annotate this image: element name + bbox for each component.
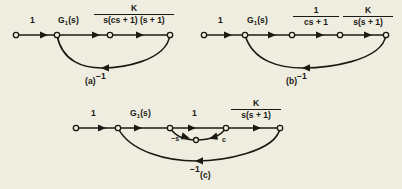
panel-b-feedback-arc <box>245 35 386 68</box>
panel-c-g-suffix: (s) <box>140 108 151 118</box>
panel-a-node-1 <box>13 32 18 37</box>
panel-b-fraction-1-denominator: cs + 1 <box>293 18 339 28</box>
panel-c-node-1 <box>73 125 78 130</box>
panel-c-inner-loop-label-c: c <box>222 136 226 143</box>
panel-b-node-4 <box>337 32 342 37</box>
signal-flow-graph-drawing <box>0 0 402 189</box>
panel-a-fraction-denominator: s(cs + 1) (s + 1) <box>94 16 174 26</box>
panel-b-node-3 <box>289 32 294 37</box>
panel-b-fraction-1: 1 cs + 1 <box>293 6 339 27</box>
panel-a-arrowhead-1 <box>40 32 48 39</box>
panel-c-branch-label-1: 1 <box>91 108 96 118</box>
panel-a-branch-label-1: 1 <box>30 15 35 25</box>
panel-a-node-2 <box>54 32 59 37</box>
panel-b-feedback-gain-label: −1 <box>297 71 307 81</box>
panel-c-inner-node <box>194 138 199 143</box>
panel-b-branch-label-1: 1 <box>218 15 223 25</box>
panel-c-caption: (c) <box>200 170 211 180</box>
panel-a-arrowhead-2 <box>92 32 100 39</box>
panel-a-node-3 <box>107 32 112 37</box>
panel-a-g-letter: G <box>58 15 65 25</box>
panel-b-fraction-2: K s(s + 1) <box>343 6 393 27</box>
panel-b-g-suffix: (s) <box>257 15 268 25</box>
panel-c-inner-loop-label-minus-s: −s <box>171 135 179 142</box>
panel-b-fraction-1-numerator: 1 <box>293 6 339 16</box>
panel-b-arrowhead-1 <box>224 32 232 39</box>
panel-a-fraction-numerator: K <box>94 4 174 14</box>
panel-c-arrowhead-1 <box>98 125 106 132</box>
panel-c-transfer-function-fraction: K s(s + 1) <box>231 99 281 120</box>
panel-a-graph <box>13 32 172 72</box>
panel-b-fraction-2-denominator: s(s + 1) <box>343 18 393 28</box>
panel-b-arrowhead-4 <box>364 32 372 39</box>
panel-c-fraction-denominator: s(s + 1) <box>231 111 281 121</box>
panel-b-node-2 <box>242 32 247 37</box>
panel-a-caption: (a) <box>85 76 96 86</box>
panel-b-arrowhead-2 <box>268 32 276 39</box>
panel-b-g-letter: G <box>247 15 254 25</box>
panel-c-inner-loop-left-arrowhead <box>181 132 190 139</box>
panel-b-fraction-2-numerator: K <box>343 6 393 16</box>
panel-c-fraction-numerator: K <box>231 99 281 109</box>
panel-c-branch-label-g1: G1(s) <box>130 108 151 119</box>
panel-c-arrowhead-4 <box>253 125 261 132</box>
panel-c-node-3 <box>167 125 172 130</box>
panel-b-caption: (b) <box>286 76 297 86</box>
figure-canvas: 1 G1(s) K s(cs + 1) (s + 1) −1 (a) 1 G1(… <box>0 0 402 189</box>
panel-c-branch-label-2: 1 <box>192 108 197 118</box>
panel-c-feedback-arc <box>118 128 280 161</box>
panel-c-arrowhead-3 <box>188 125 196 132</box>
panel-c-node-2 <box>115 125 120 130</box>
panel-c-feedback-gain-label: −1 <box>190 164 200 174</box>
panel-a-arrowhead-3 <box>136 32 144 39</box>
panel-b-graph <box>201 32 388 72</box>
panel-c-graph <box>73 125 282 165</box>
panel-b-arrowhead-3 <box>316 32 324 39</box>
panel-c-inner-loop-right-arrowhead <box>209 133 218 140</box>
panel-b-node-5 <box>383 32 388 37</box>
panel-c-node-5 <box>277 125 282 130</box>
panel-a-feedback-arc <box>57 35 170 68</box>
panel-a-feedback-gain-label: −1 <box>96 71 106 81</box>
panel-a-g-suffix: (s) <box>68 15 79 25</box>
panel-b-branch-label-g1: G1(s) <box>247 15 268 26</box>
panel-c-g-letter: G <box>130 108 137 118</box>
panel-c-node-4 <box>223 125 228 130</box>
panel-c-arrowhead-2 <box>134 125 142 132</box>
panel-b-node-1 <box>201 32 206 37</box>
panel-a-node-4 <box>167 32 172 37</box>
panel-a-transfer-function-fraction: K s(cs + 1) (s + 1) <box>94 4 174 25</box>
panel-a-branch-label-g1: G1(s) <box>58 15 79 26</box>
